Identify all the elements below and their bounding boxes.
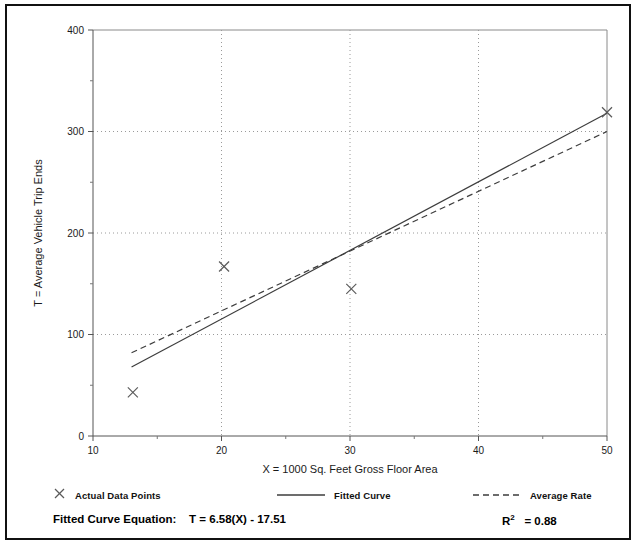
x-marker-icon [53, 486, 66, 504]
trip-generation-chart: 0100200300400 1020304050 X = 1000 Sq. Fe… [0, 0, 638, 545]
chart-legend: Actual Data Points Fitted Curve Average … [5, 486, 631, 508]
y-tick-label: 0 [78, 431, 84, 442]
r-squared-exponent: 2 [510, 513, 514, 522]
r-squared-value: = 0.88 [524, 515, 556, 527]
x-axis-tick-labels: 1020304050 [87, 445, 613, 456]
chart-page: 0100200300400 1020304050 X = 1000 Sq. Fe… [0, 0, 638, 545]
equation-row: Fitted Curve Equation: T = 6.58(X) - 17.… [5, 511, 631, 537]
x-tick-label: 30 [344, 445, 356, 456]
legend-label-actual-data-points: Actual Data Points [75, 490, 161, 501]
y-axis-title: T = Average Vehicle Trip Ends [32, 159, 44, 307]
legend-item-actual-data-points: Actual Data Points [53, 486, 161, 504]
dashed-line-icon [473, 486, 521, 504]
r-squared-annotation: R2 = 0.88 [502, 513, 557, 527]
x-axis-ticks [93, 436, 607, 441]
fitted-curve-equation-value: T = 6.58(X) - 17.51 [189, 513, 286, 525]
solid-line-icon [277, 486, 325, 504]
x-tick-label: 50 [601, 445, 613, 456]
legend-item-average-rate: Average Rate [473, 486, 592, 504]
fitted-curve-equation-label: Fitted Curve Equation: [53, 513, 176, 525]
x-tick-label: 20 [216, 445, 228, 456]
fitted-curve-equation: Fitted Curve Equation: T = 6.58(X) - 17.… [53, 513, 286, 525]
legend-item-fitted-curve: Fitted Curve [277, 486, 391, 504]
legend-label-fitted-curve: Fitted Curve [334, 490, 391, 501]
x-tick-label: 10 [87, 445, 99, 456]
x-axis-title: X = 1000 Sq. Feet Gross Floor Area [262, 463, 438, 475]
legend-label-average-rate: Average Rate [530, 490, 592, 501]
x-tick-label: 40 [473, 445, 485, 456]
y-tick-label: 400 [67, 25, 84, 36]
y-axis-ticks [88, 30, 93, 436]
y-tick-label: 300 [67, 126, 84, 137]
y-tick-label: 100 [67, 329, 84, 340]
y-tick-label: 200 [67, 228, 84, 239]
y-axis-tick-labels: 0100200300400 [67, 25, 84, 442]
